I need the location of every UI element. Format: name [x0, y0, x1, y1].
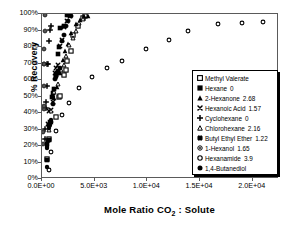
filled-circle-icon: [195, 164, 204, 173]
legend-item[interactable]: Butyl Ethyl Ether1.22: [195, 133, 276, 143]
legend-item-label: Hexanamide: [205, 155, 241, 162]
legend-item-value: 2.16: [248, 125, 260, 132]
data-point: [47, 123, 52, 128]
data-point: [63, 67, 68, 72]
x-tick-label: 1.0E+04: [120, 181, 172, 190]
x-tick-mark: [41, 178, 42, 181]
scatter-chart: % Recovery 0%10%20%30%40%50%60%70%80%90%…: [0, 0, 294, 230]
data-point: [76, 86, 81, 91]
data-point: [42, 46, 47, 51]
y-tick-label: 10%: [4, 158, 38, 165]
bold-x-icon: [195, 134, 204, 143]
data-point: [42, 29, 47, 34]
legend-item-label: Hexane: [205, 85, 227, 92]
data-point: [55, 70, 60, 75]
data-point: [49, 109, 54, 114]
legend-item-label: 1-Hexanol: [205, 145, 234, 152]
data-point: [46, 39, 51, 44]
data-point: [70, 35, 75, 40]
legend-item-label: Cyclohexane: [205, 115, 242, 122]
data-point: [144, 47, 149, 52]
legend-item[interactable]: Hexane0: [195, 83, 276, 93]
data-point: [69, 14, 74, 18]
data-point: [51, 86, 56, 91]
data-point: [42, 83, 47, 88]
legend-item-label: Hexanoic Acid: [205, 105, 246, 112]
legend-item-label: 2-Hexanone: [205, 95, 240, 102]
filled-triangle-icon: [195, 94, 204, 103]
dotted-circle-icon: [195, 144, 204, 153]
data-point: [55, 52, 60, 57]
y-tick-label: 0%: [4, 174, 38, 181]
x-tick-label: 2.0E+04: [226, 181, 278, 190]
data-point: [67, 100, 72, 105]
open-square-icon: [195, 74, 204, 83]
x-tick-mark: [199, 178, 200, 181]
x-cross-icon: [195, 104, 204, 113]
data-point: [42, 14, 47, 18]
y-tick-label: 50%: [4, 92, 38, 99]
data-point: [53, 128, 58, 133]
open-circle-icon: [195, 154, 204, 163]
y-tick-label: 90%: [4, 26, 38, 33]
legend-item-label: Methyl Valerate: [205, 75, 249, 82]
x-tick-label: 5.0E+03: [68, 181, 120, 190]
data-point: [73, 28, 78, 33]
y-tick-label: 60%: [4, 75, 38, 82]
y-axis-tick-labels: 0%10%20%30%40%50%60%70%80%90%100%: [0, 0, 38, 230]
data-point: [85, 14, 90, 18]
data-point: [239, 20, 244, 25]
data-point: [48, 117, 53, 122]
data-point: [167, 37, 172, 42]
y-tick-label: 80%: [4, 42, 38, 49]
data-point: [49, 24, 54, 29]
data-point: [105, 66, 110, 71]
legend-item[interactable]: Chlorohexane2.16: [195, 123, 276, 133]
data-point: [44, 157, 49, 162]
data-point: [42, 61, 47, 66]
data-point: [57, 43, 62, 48]
data-point: [66, 19, 71, 24]
data-point: [119, 58, 124, 63]
y-tick-label: 70%: [4, 59, 38, 66]
legend-item[interactable]: Cyclohexane0: [195, 113, 276, 123]
x-tick-mark: [94, 178, 95, 181]
data-point: [50, 101, 55, 106]
x-tick-mark: [146, 178, 147, 181]
legend-item-label: 1,4-Butanediol: [205, 165, 246, 172]
data-point: [45, 144, 50, 149]
data-point: [42, 103, 46, 108]
data-point: [61, 33, 66, 38]
legend-item[interactable]: Hexanamide3.9: [195, 153, 276, 163]
data-point: [260, 20, 265, 25]
data-point: [44, 164, 49, 169]
data-point: [63, 24, 68, 29]
plus-icon: [195, 114, 204, 123]
data-point: [46, 138, 51, 143]
data-point: [89, 74, 94, 79]
legend-item-value: 3.9: [244, 155, 253, 162]
chart-legend: Methyl ValerateHexane02-Hexanone2.68Hexa…: [192, 70, 278, 175]
data-point: [67, 43, 72, 48]
legend-item[interactable]: Methyl Valerate: [195, 73, 276, 83]
data-point: [215, 21, 220, 26]
x-tick-label: 1.5E+04: [173, 181, 225, 190]
x-axis-title: Mole Ratio CO2 : Solute: [41, 204, 278, 217]
legend-item[interactable]: 2-Hexanone2.68: [195, 93, 276, 103]
legend-item-value: 1.22: [255, 135, 267, 142]
data-point: [50, 94, 55, 99]
legend-item-label: Chlorohexane: [205, 125, 245, 132]
legend-item[interactable]: 1-Hexanol1.65: [195, 143, 276, 153]
y-tick-label: 30%: [4, 125, 38, 132]
legend-item[interactable]: Hexanoic Acid1.57: [195, 103, 276, 113]
legend-item-label: Butyl Ethyl Ether: [205, 135, 252, 142]
filled-square-icon: [195, 84, 204, 93]
data-point: [58, 93, 63, 98]
legend-item-value: 1.65: [237, 145, 249, 152]
data-point: [68, 48, 73, 53]
legend-item[interactable]: 1,4-Butanediol: [195, 163, 276, 173]
data-point: [64, 53, 69, 58]
x-tick-mark: [252, 178, 253, 181]
data-point: [59, 39, 64, 44]
data-point: [80, 16, 85, 21]
